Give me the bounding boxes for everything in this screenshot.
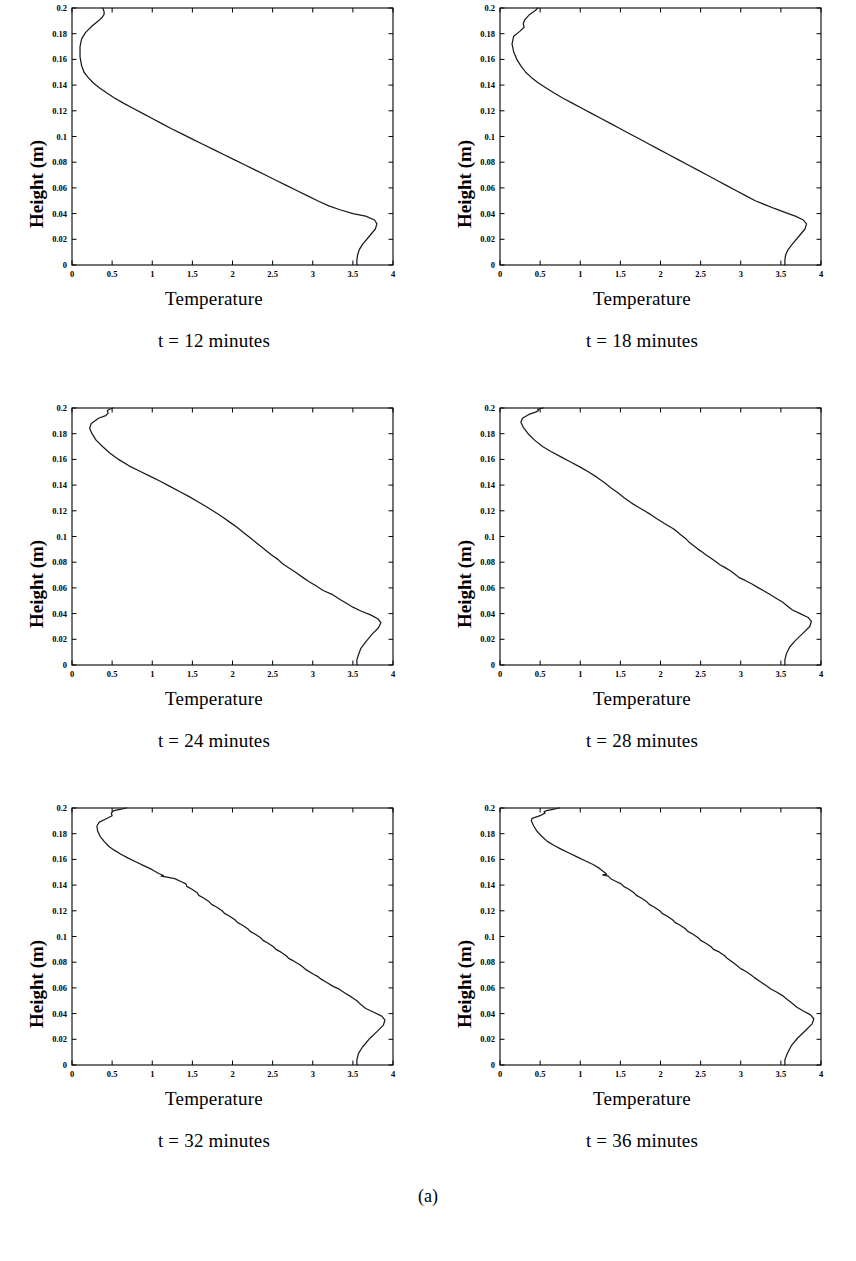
panel-grid: 00.511.522.533.5400.020.040.060.080.10.1… bbox=[0, 0, 856, 1190]
x-tick-label: 2.5 bbox=[267, 669, 278, 678]
plot-area-t32: 00.511.522.533.5400.020.040.060.080.10.1… bbox=[0, 800, 428, 1078]
x-tick-label: 2.5 bbox=[695, 669, 706, 678]
panel-caption-t32: t = 32 minutes bbox=[0, 1130, 428, 1152]
y-tick-label: 0.04 bbox=[480, 1009, 496, 1019]
y-tick-label: 0.06 bbox=[52, 983, 67, 993]
data-series-line bbox=[531, 808, 813, 1065]
panel-caption-t12: t = 12 minutes bbox=[0, 330, 428, 352]
x-tick-label: 2 bbox=[230, 1069, 234, 1078]
y-tick-label: 0.16 bbox=[52, 454, 67, 464]
x-tick-label: 3.5 bbox=[776, 669, 787, 678]
x-tick-label: 3.5 bbox=[348, 1069, 359, 1078]
y-tick-label: 0.16 bbox=[480, 454, 495, 464]
x-tick-label: 3 bbox=[311, 669, 315, 678]
y-tick-label: 0.12 bbox=[52, 106, 67, 116]
y-tick-label: 0.06 bbox=[480, 583, 495, 593]
y-axis-label-t36: Height (m) bbox=[454, 940, 476, 1028]
chart-svg: 00.511.522.533.5400.020.040.060.080.10.1… bbox=[428, 0, 856, 278]
x-tick-label: 0.5 bbox=[535, 1069, 546, 1078]
y-axis-label-t18: Height (m) bbox=[454, 140, 476, 228]
x-tick-label: 4 bbox=[819, 269, 824, 278]
panel-t32: 00.511.522.533.5400.020.040.060.080.10.1… bbox=[0, 800, 428, 1190]
x-tick-label: 1.5 bbox=[615, 669, 626, 678]
x-tick-label: 1 bbox=[150, 669, 154, 678]
panel-caption-t18: t = 18 minutes bbox=[428, 330, 856, 352]
panel-caption-t28: t = 28 minutes bbox=[428, 730, 856, 752]
x-tick-label: 3 bbox=[311, 1069, 315, 1078]
x-tick-label: 0.5 bbox=[535, 669, 546, 678]
y-tick-label: 0.18 bbox=[52, 829, 67, 839]
y-tick-label: 0.14 bbox=[480, 480, 496, 490]
x-tick-label: 2 bbox=[658, 669, 662, 678]
x-axis-label-t18: Temperature bbox=[428, 288, 856, 310]
y-tick-label: 0.14 bbox=[480, 80, 496, 90]
y-tick-label: 0.04 bbox=[480, 609, 496, 619]
x-tick-label: 0 bbox=[498, 269, 502, 278]
y-tick-label: 0.16 bbox=[480, 854, 495, 864]
y-axis-label-t32: Height (m) bbox=[26, 940, 48, 1028]
x-axis-label-t32: Temperature bbox=[0, 1088, 428, 1110]
x-tick-label: 3.5 bbox=[776, 269, 787, 278]
y-axis-label-t24: Height (m) bbox=[26, 540, 48, 628]
y-tick-label: 0.1 bbox=[56, 132, 67, 142]
y-tick-label: 0.04 bbox=[52, 209, 68, 219]
y-tick-label: 0.02 bbox=[480, 234, 495, 244]
x-tick-label: 0 bbox=[498, 1069, 502, 1078]
x-axis-label-t24: Temperature bbox=[0, 688, 428, 710]
chart-svg: 00.511.522.533.5400.020.040.060.080.10.1… bbox=[0, 800, 428, 1078]
plot-frame bbox=[72, 408, 393, 665]
y-tick-label: 0.12 bbox=[52, 506, 67, 516]
x-tick-label: 0.5 bbox=[535, 269, 546, 278]
x-tick-label: 4 bbox=[819, 1069, 824, 1078]
y-tick-label: 0.08 bbox=[52, 557, 67, 567]
y-tick-label: 0.02 bbox=[52, 1034, 67, 1044]
panel-t36: 00.511.522.533.5400.020.040.060.080.10.1… bbox=[428, 800, 856, 1190]
x-tick-label: 0 bbox=[70, 269, 74, 278]
y-tick-label: 0.02 bbox=[52, 634, 67, 644]
panel-t18: 00.511.522.533.5400.020.040.060.080.10.1… bbox=[428, 0, 856, 400]
y-tick-label: 0.12 bbox=[480, 106, 495, 116]
x-tick-label: 2 bbox=[658, 1069, 662, 1078]
y-axis-label-t12: Height (m) bbox=[26, 140, 48, 228]
y-tick-label: 0.12 bbox=[480, 906, 495, 916]
y-tick-label: 0.08 bbox=[480, 157, 495, 167]
plot-frame bbox=[72, 808, 393, 1065]
x-tick-label: 3 bbox=[311, 269, 315, 278]
y-tick-label: 0.08 bbox=[480, 957, 495, 967]
y-tick-label: 0.04 bbox=[52, 609, 68, 619]
y-tick-label: 0.2 bbox=[484, 803, 495, 813]
plot-area-t36: 00.511.522.533.5400.020.040.060.080.10.1… bbox=[428, 800, 856, 1078]
panel-caption-t24: t = 24 minutes bbox=[0, 730, 428, 752]
data-series-line bbox=[97, 808, 385, 1065]
y-tick-label: 0.1 bbox=[56, 532, 67, 542]
y-tick-label: 0.18 bbox=[52, 429, 67, 439]
x-tick-label: 3 bbox=[739, 669, 743, 678]
plot-frame bbox=[500, 408, 821, 665]
y-tick-label: 0 bbox=[491, 1060, 495, 1070]
y-tick-label: 0 bbox=[491, 660, 495, 670]
x-tick-label: 2.5 bbox=[267, 1069, 278, 1078]
y-tick-label: 0.18 bbox=[480, 829, 495, 839]
y-tick-label: 0.1 bbox=[484, 532, 495, 542]
y-tick-label: 0.18 bbox=[480, 429, 495, 439]
panel-t28: 00.511.522.533.5400.020.040.060.080.10.1… bbox=[428, 400, 856, 800]
y-tick-label: 0.14 bbox=[52, 80, 68, 90]
panel-caption-t36: t = 36 minutes bbox=[428, 1130, 856, 1152]
x-tick-label: 0.5 bbox=[107, 669, 118, 678]
x-axis-label-t12: Temperature bbox=[0, 288, 428, 310]
x-tick-label: 1 bbox=[150, 1069, 154, 1078]
x-tick-label: 0 bbox=[70, 1069, 74, 1078]
data-series-line bbox=[90, 408, 381, 665]
y-tick-label: 0.2 bbox=[484, 403, 495, 413]
y-tick-label: 0.1 bbox=[56, 932, 67, 942]
y-tick-label: 0 bbox=[63, 660, 67, 670]
y-tick-label: 0.06 bbox=[480, 183, 495, 193]
plot-frame bbox=[500, 808, 821, 1065]
y-tick-label: 0.08 bbox=[52, 957, 67, 967]
y-tick-label: 0.1 bbox=[484, 132, 495, 142]
y-tick-label: 0.1 bbox=[484, 932, 495, 942]
x-tick-label: 0.5 bbox=[107, 1069, 118, 1078]
y-tick-label: 0.02 bbox=[480, 1034, 495, 1044]
chart-svg: 00.511.522.533.5400.020.040.060.080.10.1… bbox=[0, 0, 428, 278]
panel-t12: 00.511.522.533.5400.020.040.060.080.10.1… bbox=[0, 0, 428, 400]
